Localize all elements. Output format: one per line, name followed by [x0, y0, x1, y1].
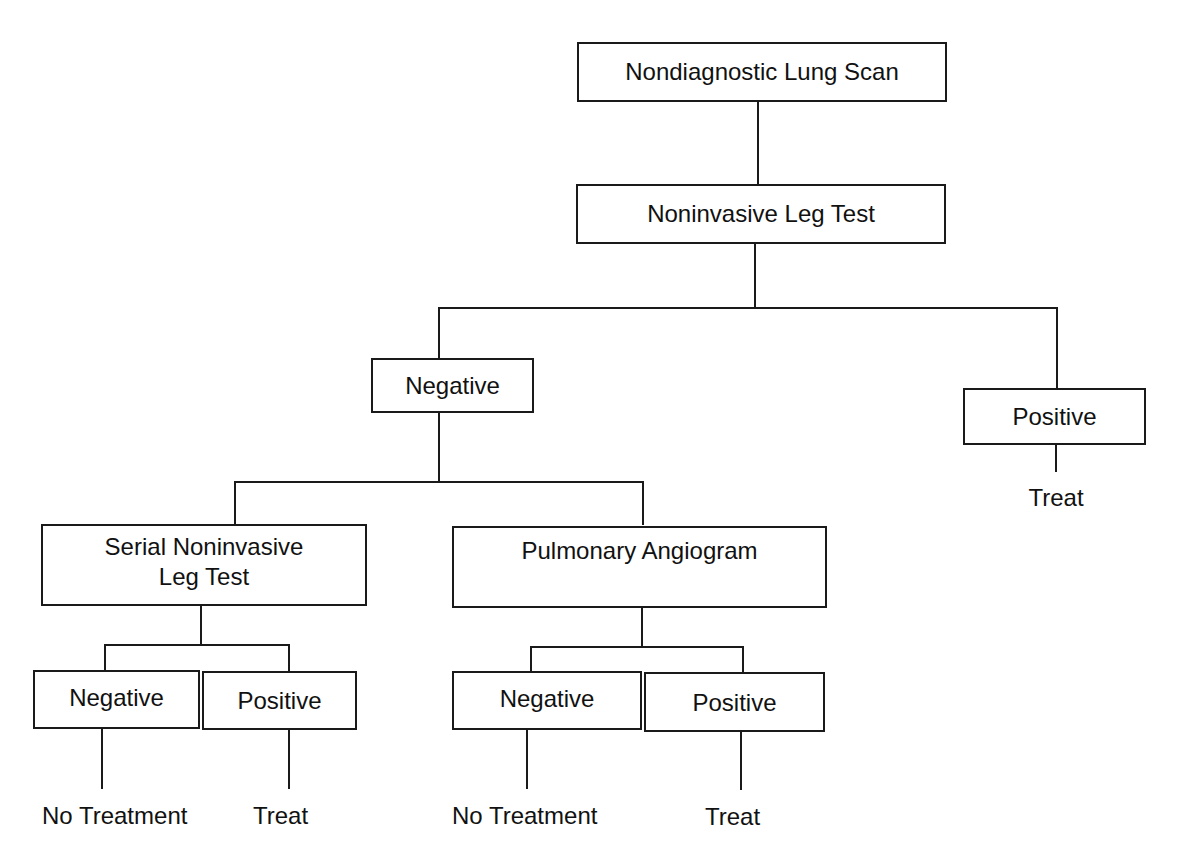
connector: [438, 307, 440, 359]
connector: [740, 731, 742, 790]
outcome-treat: Treat: [705, 803, 785, 831]
connector: [104, 644, 290, 646]
node-serial-positive: Positive: [202, 671, 357, 730]
connector: [234, 481, 236, 525]
node-negative: Negative: [371, 358, 534, 413]
connector: [438, 412, 440, 482]
outcome-treat: Treat: [1000, 484, 1112, 512]
node-angiogram-negative: Negative: [452, 671, 642, 730]
connector: [234, 481, 643, 483]
node-noninvasive-leg-test: Noninvasive Leg Test: [576, 184, 946, 244]
connector: [641, 607, 643, 647]
connector: [754, 243, 756, 308]
node-positive: Positive: [963, 388, 1146, 445]
node-angiogram-positive: Positive: [644, 672, 825, 732]
node-label: Negative: [405, 372, 500, 399]
connector: [104, 644, 106, 671]
outcome-treat: Treat: [250, 802, 333, 830]
connector: [530, 646, 532, 673]
node-label-line2: Leg Test: [43, 562, 365, 592]
connector: [200, 605, 202, 645]
node-nondiagnostic-lung-scan: Nondiagnostic Lung Scan: [577, 42, 947, 102]
node-label: Negative: [69, 684, 164, 711]
connector: [288, 729, 290, 789]
node-label-line1: Serial Noninvasive: [43, 532, 365, 562]
node-label: Positive: [692, 689, 776, 716]
outcome-no-treatment: No Treatment: [452, 802, 632, 830]
node-serial-noninvasive-leg-test: Serial Noninvasive Leg Test: [41, 524, 367, 606]
connector: [526, 729, 528, 789]
outcome-no-treatment: No Treatment: [22, 802, 242, 830]
connector: [1055, 444, 1057, 472]
node-label: Positive: [237, 687, 321, 714]
node-pulmonary-angiogram: Pulmonary Angiogram: [452, 526, 827, 608]
connector: [288, 644, 290, 671]
connector: [101, 728, 103, 789]
node-serial-negative: Negative: [33, 670, 200, 729]
node-label: Nondiagnostic Lung Scan: [625, 58, 899, 85]
decision-tree-diagram: Nondiagnostic Lung Scan Noninvasive Leg …: [0, 0, 1189, 862]
connector: [530, 646, 744, 648]
node-label: Positive: [1012, 403, 1096, 430]
node-label: Noninvasive Leg Test: [647, 200, 875, 227]
connector: [742, 646, 744, 673]
connector: [1056, 307, 1058, 389]
connector: [438, 307, 1058, 309]
node-label: Pulmonary Angiogram: [521, 537, 757, 564]
node-label: Negative: [500, 685, 595, 712]
connector: [757, 101, 759, 185]
connector: [642, 481, 644, 525]
